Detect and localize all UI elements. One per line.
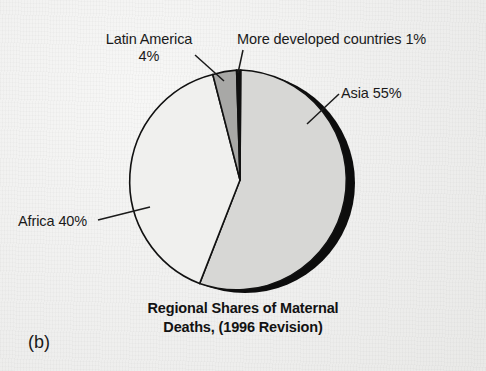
latin-america-value: 4%	[139, 48, 160, 64]
chart-title-line-1: Regional Shares of Maternal	[93, 299, 393, 318]
slice-label-africa: Africa 40%	[18, 213, 87, 230]
slice-label-asia: Asia 55%	[341, 85, 401, 102]
slice-label-more-developed: More developed countries 1%	[237, 31, 426, 48]
slice-label-latin-america: Latin America4%	[86, 31, 212, 64]
chart-title-line-2: Deaths, (1996 Revision)	[93, 318, 393, 337]
chart-title: Regional Shares of MaternalDeaths, (1996…	[93, 299, 393, 337]
figure-panel: Latin America4% More developed countries…	[0, 0, 486, 371]
latin-america-name: Latin America	[106, 31, 193, 47]
figure-panel-label: (b)	[28, 332, 50, 353]
